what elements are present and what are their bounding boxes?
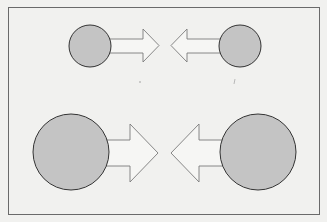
diagram-canvas (0, 0, 327, 222)
small-circle-left (69, 25, 111, 67)
small-circle-right (219, 25, 261, 67)
large-circle-left (33, 114, 109, 190)
background (0, 0, 327, 222)
large-circle-right (220, 114, 296, 190)
speck (139, 81, 141, 83)
